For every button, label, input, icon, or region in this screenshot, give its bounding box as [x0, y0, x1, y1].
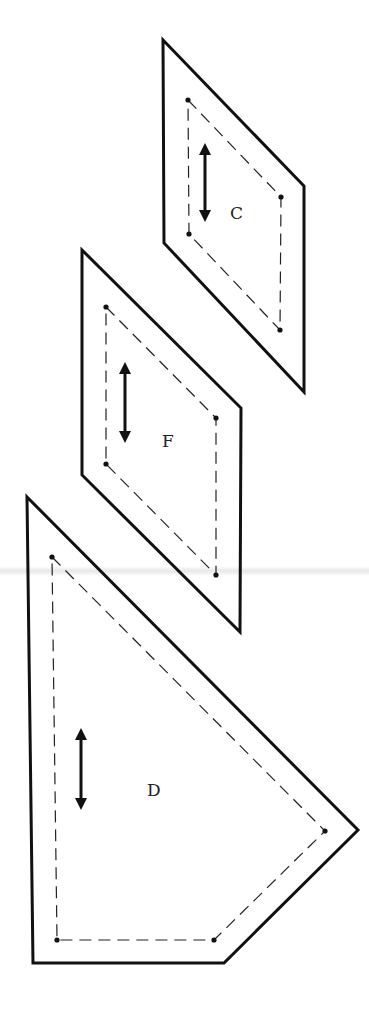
piece-label: D	[147, 780, 161, 800]
seam-line	[52, 557, 325, 940]
seam-corner-dot	[211, 937, 216, 942]
seam-corner-dot	[103, 461, 108, 466]
seam-corner-dot	[277, 327, 282, 332]
seam-corner-dot	[185, 97, 190, 102]
seam-corner-dot	[49, 554, 54, 559]
seam-corner-dot	[54, 937, 59, 942]
seam-corner-dot	[186, 231, 191, 236]
seam-corner-dot	[278, 194, 283, 199]
piece-label: F	[162, 431, 174, 451]
piece-c: C	[163, 40, 304, 392]
seam-corner-dot	[322, 828, 327, 833]
pattern-diagram: CFD	[0, 0, 369, 1012]
seam-corner-dot	[103, 304, 108, 309]
seam-corner-dot	[213, 572, 218, 577]
cutting-line	[27, 497, 358, 963]
piece-label: C	[230, 203, 243, 223]
seam-corner-dot	[213, 415, 218, 420]
piece-d: D	[27, 497, 358, 963]
seam-line	[106, 307, 216, 575]
